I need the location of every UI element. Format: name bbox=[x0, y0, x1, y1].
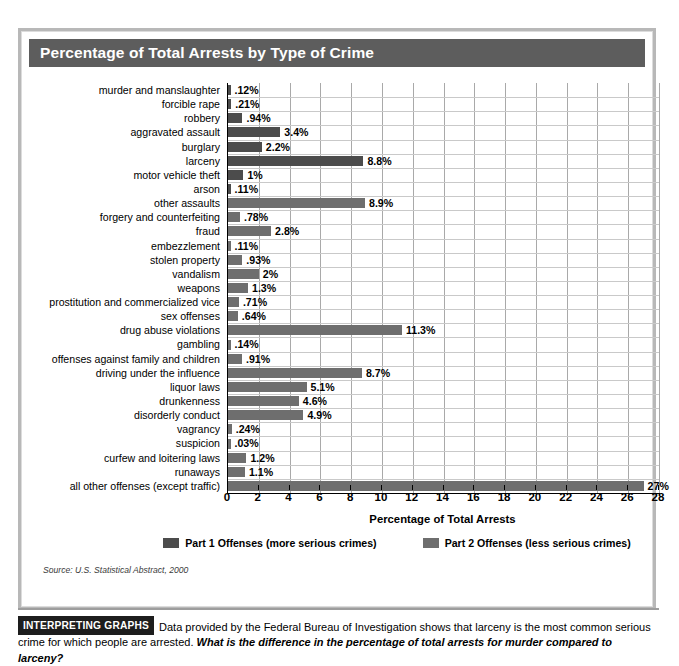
category-label: robbery bbox=[30, 111, 220, 125]
category-label: drunkenness bbox=[30, 394, 220, 408]
chart-row: vandalism2% bbox=[30, 267, 659, 281]
chart-row: prostitution and commercialized vice.71% bbox=[30, 295, 659, 309]
bar-p2 bbox=[228, 396, 299, 406]
x-tick bbox=[473, 485, 474, 490]
bar-p2 bbox=[228, 368, 362, 378]
x-tick-label: 14 bbox=[436, 491, 449, 503]
chart-row: weapons1.3% bbox=[30, 281, 659, 295]
plot-wrapper: murder and manslaughter.12%forcible rape… bbox=[29, 75, 645, 599]
chart-row: motor vehicle theft1% bbox=[30, 168, 659, 182]
value-label: 1.1% bbox=[249, 465, 273, 479]
chart-row: curfew and loitering laws1.2% bbox=[30, 451, 659, 465]
chart-row: forcible rape.21% bbox=[30, 97, 659, 111]
x-tick bbox=[412, 485, 413, 490]
category-label: gambling bbox=[30, 337, 220, 351]
chart-row: runaways1.1% bbox=[30, 465, 659, 479]
value-label: .64% bbox=[242, 309, 266, 323]
category-label: other assaults bbox=[30, 196, 220, 210]
bar-p2 bbox=[228, 226, 271, 236]
category-label: vandalism bbox=[30, 267, 220, 281]
bar-p2 bbox=[228, 382, 307, 392]
legend-item-part1: Part 1 Offenses (more serious crimes) bbox=[163, 537, 376, 549]
category-label: all other offenses (except traffic) bbox=[30, 479, 220, 493]
x-tick bbox=[381, 485, 382, 490]
x-tick bbox=[289, 485, 290, 490]
value-label: .11% bbox=[235, 182, 259, 196]
x-tick-label: 2 bbox=[255, 491, 261, 503]
category-label: disorderly conduct bbox=[30, 408, 220, 422]
bar-p2 bbox=[228, 241, 231, 251]
chart-row: drunkenness4.6% bbox=[30, 394, 659, 408]
chart-row: arson.11% bbox=[30, 182, 659, 196]
plot-area: murder and manslaughter.12%forcible rape… bbox=[227, 83, 660, 494]
chart-row: sex offenses.64% bbox=[30, 309, 659, 323]
bar-p2 bbox=[228, 255, 242, 265]
value-label: .91% bbox=[246, 352, 270, 366]
value-label: 5.1% bbox=[311, 380, 335, 394]
category-label: liquor laws bbox=[30, 380, 220, 394]
x-tick-label: 28 bbox=[652, 491, 665, 503]
bar-p1 bbox=[228, 113, 242, 123]
category-label: burglary bbox=[30, 140, 220, 154]
category-label: prostitution and commercialized vice bbox=[30, 295, 220, 309]
gridline-28 bbox=[659, 83, 660, 493]
x-tick bbox=[566, 485, 567, 490]
source-note: Source: U.S. Statistical Abstract, 2000 bbox=[43, 565, 188, 575]
chart-legend: Part 1 Offenses (more serious crimes) Pa… bbox=[29, 537, 645, 549]
chart-row: fraud2.8% bbox=[30, 224, 659, 238]
category-label: offenses against family and children bbox=[30, 352, 220, 366]
bar-p1 bbox=[228, 170, 243, 180]
value-label: .21% bbox=[235, 97, 259, 111]
category-label: forcible rape bbox=[30, 97, 220, 111]
value-label: 8.7% bbox=[366, 366, 390, 380]
bar-p1 bbox=[228, 85, 231, 95]
chart-row: murder and manslaughter.12% bbox=[30, 83, 659, 97]
bar-p1 bbox=[228, 156, 363, 166]
legend-label-part1: Part 1 Offenses (more serious crimes) bbox=[185, 537, 376, 549]
value-label: 8.9% bbox=[369, 196, 393, 210]
x-tick-label: 6 bbox=[316, 491, 322, 503]
bar-p2 bbox=[228, 481, 644, 491]
bar-p2 bbox=[228, 340, 231, 350]
value-label: .14% bbox=[235, 337, 259, 351]
value-label: 2% bbox=[263, 267, 278, 281]
chart-row: embezzlement.11% bbox=[30, 239, 659, 253]
chart-row: liquor laws5.1% bbox=[30, 380, 659, 394]
category-label: weapons bbox=[30, 281, 220, 295]
value-label: 2.2% bbox=[266, 140, 290, 154]
value-label: .93% bbox=[246, 253, 270, 267]
value-label: .94% bbox=[246, 111, 270, 125]
x-tick-label: 10 bbox=[375, 491, 388, 503]
chart-row: robbery.94% bbox=[30, 111, 659, 125]
bar-p2 bbox=[228, 311, 238, 321]
value-label: 11.3% bbox=[406, 323, 435, 337]
x-tick-label: 16 bbox=[467, 491, 480, 503]
bar-p1 bbox=[228, 184, 231, 194]
category-label: murder and manslaughter bbox=[30, 83, 220, 97]
category-label: vagrancy bbox=[30, 422, 220, 436]
figure-container: Percentage of Total Arrests by Type of C… bbox=[18, 28, 656, 610]
chart-row: stolen property.93% bbox=[30, 253, 659, 267]
bar-p2 bbox=[228, 439, 231, 449]
x-tick-label: 12 bbox=[405, 491, 418, 503]
interpret-badge: INTERPRETING GRAPHS bbox=[18, 616, 154, 635]
page-title: Percentage of Total Arrests by Type of C… bbox=[29, 44, 374, 62]
bar-p2 bbox=[228, 198, 365, 208]
bar-p2 bbox=[228, 453, 246, 463]
value-label: 1.3% bbox=[252, 281, 276, 295]
interpreting-graphs-block: INTERPRETING GRAPHSData provided by the … bbox=[18, 616, 659, 666]
x-tick-label: 8 bbox=[347, 491, 353, 503]
value-label: 8.8% bbox=[367, 154, 391, 168]
bar-p2 bbox=[228, 283, 248, 293]
bar-p2 bbox=[228, 212, 240, 222]
x-tick bbox=[504, 485, 505, 490]
value-label: 4.6% bbox=[303, 394, 327, 408]
bar-p1 bbox=[228, 127, 280, 137]
legend-swatch-part2 bbox=[423, 538, 439, 548]
x-tick-label: 4 bbox=[285, 491, 291, 503]
x-tick bbox=[658, 485, 659, 490]
chart-row: vagrancy.24% bbox=[30, 422, 659, 436]
value-label: 1% bbox=[247, 168, 262, 182]
category-label: curfew and loitering laws bbox=[30, 451, 220, 465]
bar-p1 bbox=[228, 99, 231, 109]
